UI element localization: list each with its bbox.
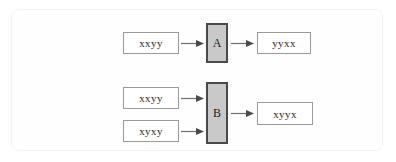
arrow-process-a-to-output (231, 39, 255, 48)
arrow-process-b-to-output (231, 109, 255, 118)
output-string-box: yyxx (257, 32, 311, 54)
input-string-box: xxyy (123, 87, 179, 109)
process-block-b: B (206, 82, 228, 144)
output-string-box: xyyx (257, 102, 313, 125)
arrow-input-2-to-process-b (181, 127, 205, 136)
input-string-box: xxyy (123, 32, 179, 54)
process-block-a: A (206, 23, 228, 63)
input-string-box: xyxy (123, 120, 179, 142)
arrow-input-1-to-process-b (181, 94, 205, 103)
arrow-input-to-process-a (181, 39, 205, 48)
figure-frame: xxyy A yyxx xxyy xyxy (11, 9, 383, 151)
